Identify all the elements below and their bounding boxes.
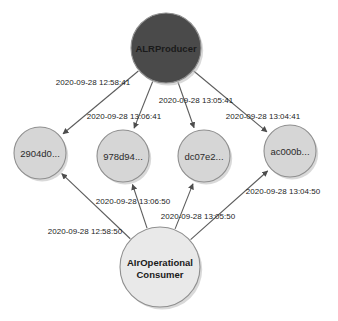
graph-node-n3[interactable]: dc07e2... <box>178 130 232 185</box>
graph-edge[interactable] <box>132 184 147 228</box>
node-label: 2904d0... <box>20 148 60 159</box>
edge-label-e4: 2020-09-28 13:04:41 <box>226 112 301 121</box>
graph-edge[interactable] <box>134 81 153 128</box>
edge-label-e5: 2020-09-28 12:58:50 <box>48 227 123 236</box>
edge-label-e8: 2020-09-28 13:04:50 <box>246 187 321 196</box>
graph-node-n2[interactable]: 978d94... <box>97 130 151 185</box>
edge-label-e7: 2020-09-28 13:05:50 <box>161 212 236 221</box>
graph-canvas: ALRProducer2904d0...978d94...dc07e2...ac… <box>0 0 338 321</box>
graph-edge[interactable] <box>175 184 193 229</box>
edge-label-e3: 2020-09-28 13:05:41 <box>159 96 234 105</box>
node-label: ALRProducer <box>135 43 197 54</box>
graph-node-n1[interactable]: 2904d0... <box>14 127 68 182</box>
node-label-line2: Consumer <box>137 269 184 280</box>
edge-label-e1: 2020-09-28 12:58:41 <box>56 78 131 87</box>
edge-label-e2: 2020-09-28 13:06:41 <box>87 112 162 121</box>
graph-node-producer[interactable]: ALRProducer <box>131 13 203 86</box>
node-label: 978d94... <box>103 151 143 162</box>
graph-node-n4[interactable]: ac000b... <box>264 125 318 180</box>
graph-node-consumer[interactable]: AIrOperationalConsumer <box>120 227 202 310</box>
node-label: dc07e2... <box>184 151 223 162</box>
node-label: ac000b... <box>270 146 309 157</box>
node-label: AIrOperational <box>127 257 193 268</box>
nodes-layer: ALRProducer2904d0...978d94...dc07e2...ac… <box>14 13 318 310</box>
edge-label-e6: 2020-09-28 13:06:50 <box>96 197 171 206</box>
